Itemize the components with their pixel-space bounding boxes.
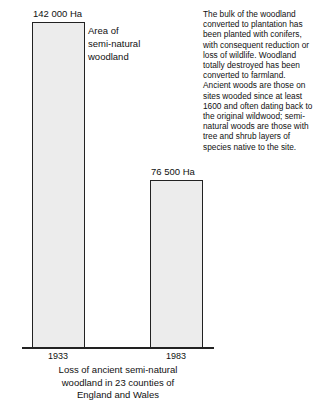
bar-1983-value-label: 76 500 Ha	[151, 166, 195, 177]
bar-1933-value-label: 142 000 Ha	[33, 8, 82, 19]
chart-caption-line-2: woodland in 23 counties of	[12, 377, 224, 390]
series-legend-line-2: semi-natural	[88, 37, 158, 50]
chart-caption-line-1: Loss of ancient semi-natural	[12, 364, 224, 377]
chart-caption: Loss of ancient semi-natural woodland in…	[12, 364, 224, 402]
x-axis-line	[22, 347, 214, 349]
x-tick-label-1933: 1933	[28, 351, 88, 362]
chart-caption-line-3: England and Wales	[12, 389, 224, 402]
explanatory-note: The bulk of the woodland converted to pl…	[203, 9, 315, 152]
explanatory-note-text: The bulk of the woodland converted to pl…	[203, 9, 315, 152]
series-legend-line-1: Area of	[88, 24, 158, 37]
bar-1933	[32, 22, 85, 348]
x-tick-label-1983: 1983	[146, 351, 206, 362]
series-legend: Area of semi-natural woodland	[88, 24, 158, 63]
bar-1983	[150, 180, 203, 348]
series-legend-line-3: woodland	[88, 50, 158, 63]
